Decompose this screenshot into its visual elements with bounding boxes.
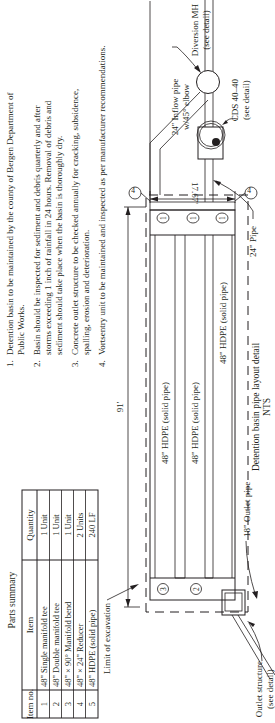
- diversion-mh-symbol: [197, 71, 220, 94]
- outlet-pipe-label: 18" Outlet pipe: [242, 482, 252, 537]
- note-2: 2. Basin should be inspected for sedimen…: [32, 100, 64, 367]
- svg-text:3.: 3.: [70, 360, 80, 367]
- table-row: 2 48" Double manifold tee 1 Unit: [51, 514, 61, 707]
- svg-text:240 LF: 240 LF: [87, 512, 97, 537]
- note-3: 3. Concrete outlet structure to be check…: [70, 89, 91, 367]
- pipe-label-3: 48" HDPE (solid pipe): [218, 282, 228, 364]
- diversion-mh-label-2: (see detail): [201, 10, 211, 50]
- outlet-structure-label-1: Outlet structure: [254, 661, 264, 717]
- item-tag-4-bottom: 4: [235, 186, 257, 201]
- svg-text:48" HDPE (solid pipe): 48" HDPE (solid pipe): [87, 609, 97, 687]
- svg-text:1 Unit: 1 Unit: [63, 514, 73, 536]
- note-4: 4. Vortsentry unit to be maintained and …: [97, 46, 107, 368]
- drawing-caption: Detention basin pipe layout detail NTS: [251, 343, 272, 472]
- outlet-structure-label-2: (see detail): [265, 669, 275, 709]
- svg-text:storms exceeding 1 inch of rai: storms exceeding 1 inch of rainfall in 2…: [43, 100, 53, 355]
- header-quantity: Quantity: [25, 509, 35, 541]
- svg-text:Public Works.: Public Works.: [16, 304, 26, 355]
- svg-text:1 Unit: 1 Unit: [39, 514, 49, 536]
- inflow-pipe-label-1: 24" Inflow pipe: [170, 79, 180, 136]
- svg-text:2.: 2.: [32, 360, 42, 367]
- svg-text:4: 4: [131, 186, 135, 195]
- pipe-label-1: 48" HDPE (solid pipe): [160, 382, 170, 464]
- svg-text:48" × 90° Manifold bend: 48" × 90° Manifold bend: [63, 601, 73, 687]
- cds-label-1: CDS 40–40: [230, 78, 240, 121]
- length-dim-label: 91': [115, 401, 125, 412]
- svg-text:5: 5: [87, 702, 97, 706]
- limit-of-excavation-label: Limit of excavation: [102, 603, 112, 674]
- width-dim-label: 17.67': [190, 182, 200, 204]
- item-tag-1-bottom: 1: [216, 213, 228, 223]
- svg-text:Concrete outlet structure to b: Concrete outlet structure to be checked …: [70, 89, 80, 355]
- detention-basin-drawing: Parts summary Item no. Item Quantity 1 4…: [0, 0, 275, 723]
- svg-text:3: 3: [159, 587, 168, 591]
- parts-summary-title: Parts summary: [7, 571, 17, 628]
- svg-text:Basin should be inspected for: Basin should be inspected for sediment a…: [32, 106, 42, 355]
- svg-text:4: 4: [75, 701, 85, 706]
- pipe-24-label: 24" Pipe: [248, 226, 258, 257]
- svg-text:48" Single manifold tee: 48" Single manifold tee: [39, 606, 49, 687]
- svg-text:2: 2: [51, 702, 61, 706]
- svg-text:4: 4: [247, 186, 251, 195]
- svg-text:1 Unit: 1 Unit: [51, 514, 61, 536]
- svg-text:1: 1: [39, 702, 49, 706]
- pipe-label-2: 48" HDPE (solid pipe): [190, 382, 200, 464]
- item-tag-1-mid: 1: [187, 213, 199, 223]
- svg-text:Detention basin to be maintain: Detention basin to be maintained by the …: [5, 92, 15, 355]
- table-row: 5 48" HDPE (solid pipe) 240 LF: [87, 512, 97, 706]
- table-row: 1 48" Single manifold tee 1 Unit: [39, 514, 49, 707]
- width-dimension: 17.67': [150, 182, 235, 204]
- limit-of-excavation-callout: Limit of excavation: [102, 584, 139, 674]
- cds-unit-core: [212, 138, 220, 146]
- parts-summary-table: Parts summary Item no. Item Quantity 1 4…: [7, 490, 98, 719]
- item-tag-4-top: 4: [129, 186, 150, 201]
- header-item: Item: [25, 617, 35, 634]
- svg-text:4.: 4.: [97, 360, 107, 367]
- svg-text:48" Double manifold tee: 48" Double manifold tee: [51, 603, 61, 687]
- svg-text:Vortsentry unit to be maintain: Vortsentry unit to be maintained and ins…: [97, 46, 107, 356]
- length-dimension: 91': [115, 207, 146, 607]
- item-tag-3: 3: [158, 584, 169, 595]
- svg-text:1: 1: [218, 216, 227, 220]
- table-row: 4 48" × 24" Reducer 2 Units: [75, 513, 85, 707]
- caption-scale: NTS: [262, 398, 272, 416]
- header-item-no: Item no.: [25, 689, 35, 719]
- inflow-pipe-label-2: w/45° elbow: [181, 84, 191, 130]
- diversion-mh-label-1: Diversion MH: [190, 3, 200, 56]
- svg-text:1: 1: [159, 216, 168, 220]
- svg-text:1.: 1.: [5, 360, 15, 367]
- basin-layout: 48" HDPE (solid pipe) 48" HDPE (solid pi…: [129, 182, 257, 600]
- note-1: 1. Detention basin to be maintained by t…: [5, 92, 26, 367]
- svg-text:2 Units: 2 Units: [75, 513, 85, 538]
- caption-title: Detention basin pipe layout detail: [251, 343, 261, 472]
- svg-text:sediment should take place whe: sediment should take place when the basi…: [54, 136, 64, 355]
- svg-text:3: 3: [63, 702, 73, 706]
- item-tag-1-top: 1: [157, 213, 169, 223]
- notes: 1. Detention basin to be maintained by t…: [5, 46, 107, 368]
- table-row: 3 48" × 90° Manifold bend 1 Unit: [63, 514, 73, 707]
- svg-text:48" × 24" Reducer: 48" × 24" Reducer: [75, 623, 85, 687]
- svg-text:2: 2: [192, 587, 201, 591]
- svg-text:1: 1: [189, 216, 198, 220]
- svg-text:spalling, erosion and deterior: spalling, erosion and deterioration.: [81, 230, 91, 355]
- cds-label-2: (see detail): [241, 80, 251, 120]
- item-tag-2: 2: [191, 584, 202, 595]
